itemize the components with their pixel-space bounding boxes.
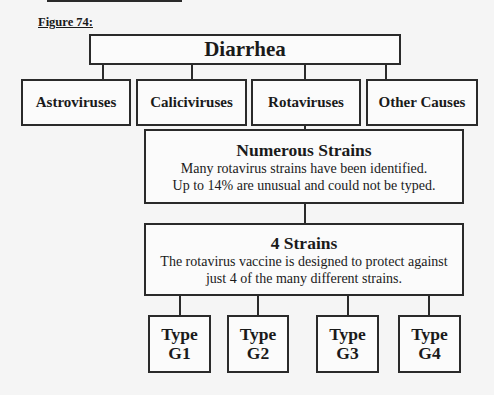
cause-label: Astroviruses [36,94,117,111]
four-strains-box: 4 Strains The rotavirus vaccine is desig… [144,223,464,296]
numerous-strains-line1: Many rotavirus strains have been identif… [181,160,427,177]
cause-rotaviruses: Rotaviruses [251,79,361,126]
figure-label: Figure 74: [38,15,93,30]
cause-caliciviruses: Caliciviruses [136,79,247,126]
connector [179,295,181,316]
type-g4-box: Type G4 [398,315,461,373]
connector [347,295,349,316]
type-label: Type [329,325,366,344]
four-strains-line1: The rotavirus vaccine is designed to pro… [160,253,447,270]
type-code: G1 [168,344,190,363]
numerous-strains-box: Numerous Strains Many rotavirus strains … [144,129,464,204]
type-g3-box: Type G3 [316,315,379,373]
cause-astroviruses: Astroviruses [21,79,131,126]
numerous-strains-title: Numerous Strains [236,140,371,160]
connector [304,64,306,80]
diarrhea-label: Diarrhea [204,37,286,62]
type-code: G2 [247,344,269,363]
connector [385,64,387,80]
type-g1-box: Type G1 [148,315,211,373]
type-label: Type [240,325,277,344]
connector [304,203,306,224]
type-code: G3 [336,344,358,363]
four-strains-line2: just 4 of the many different strains. [206,270,402,287]
type-g2-box: Type G2 [227,315,289,373]
cause-other: Other Causes [366,79,478,126]
connector [102,64,104,80]
four-strains-title: 4 Strains [271,233,338,253]
cause-label: Other Causes [379,94,466,111]
connector [428,295,430,316]
top-rule [47,0,182,2]
connector [257,295,259,316]
type-label: Type [161,325,198,344]
numerous-strains-line2: Up to 14% are unusual and could not be t… [173,177,436,194]
type-code: G4 [418,344,440,363]
cause-label: Caliciviruses [150,94,233,111]
diarrhea-box: Diarrhea [89,34,401,65]
connector [191,64,193,80]
type-label: Type [411,325,448,344]
cause-label: Rotaviruses [268,94,344,111]
